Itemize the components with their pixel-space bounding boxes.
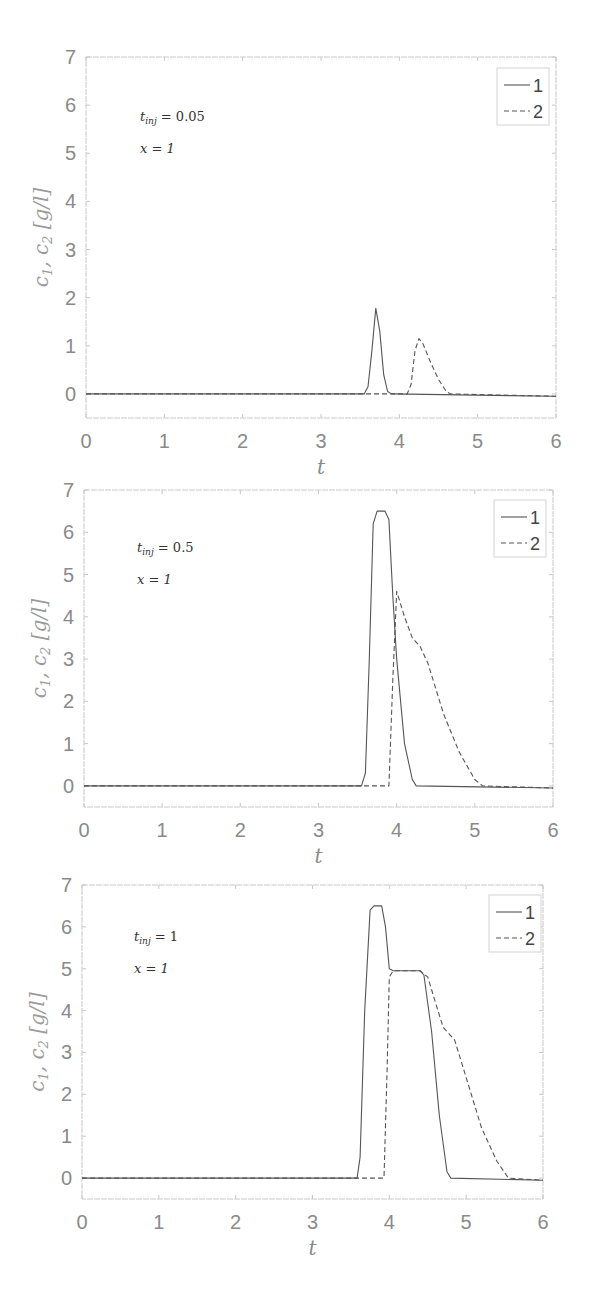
x-tick-label: 6 [537, 1211, 548, 1233]
y-axis-label: c1, c2 [g/l] [29, 188, 55, 288]
annotation-x: x = 1 [134, 961, 169, 976]
series-2-line [86, 339, 556, 397]
legend-label-2: 2 [525, 929, 535, 949]
x-tick-label: 3 [313, 819, 324, 841]
chart-1: 012345601234567tc1, c2 [g/l]tinj = 0.05x… [29, 46, 562, 479]
y-tick-label: 6 [65, 94, 76, 116]
y-tick-label: 6 [63, 521, 74, 543]
x-tick-label: 0 [76, 1211, 87, 1233]
x-tick-label: 4 [394, 430, 405, 452]
x-tick-label: 2 [237, 430, 248, 452]
x-axis-label: t [308, 1236, 317, 1260]
x-tick-label: 3 [307, 1211, 318, 1233]
x-tick-label: 1 [157, 819, 168, 841]
x-tick-label: 2 [230, 1211, 241, 1233]
x-tick-label: 1 [153, 1211, 164, 1233]
legend-label-1: 1 [533, 76, 543, 96]
figure: 012345601234567tc1, c2 [g/l]tinj = 0.05x… [0, 0, 589, 1292]
series-2-line [84, 591, 553, 788]
y-tick-label: 0 [65, 383, 76, 405]
legend-label-1: 1 [525, 903, 535, 923]
y-tick-label: 3 [65, 239, 76, 261]
annotation-x: x = 1 [140, 141, 175, 156]
y-tick-label: 3 [63, 648, 74, 670]
chart-3: 012345601234567tc1, c2 [g/l]tinj = 1x = … [25, 874, 549, 1260]
y-tick-label: 7 [63, 479, 74, 501]
y-tick-label: 5 [61, 958, 72, 980]
x-tick-label: 5 [472, 430, 483, 452]
y-tick-label: 2 [63, 690, 74, 712]
y-tick-label: 5 [63, 564, 74, 586]
x-tick-label: 2 [235, 819, 246, 841]
y-tick-label: 1 [63, 733, 74, 755]
y-tick-label: 0 [61, 1167, 72, 1189]
x-tick-label: 3 [315, 430, 326, 452]
y-tick-label: 5 [65, 142, 76, 164]
y-tick-label: 2 [61, 1083, 72, 1105]
x-tick-label: 1 [159, 430, 170, 452]
y-tick-label: 1 [61, 1125, 72, 1147]
x-tick-label: 4 [391, 819, 402, 841]
y-axis-label: c1, c2 [g/l] [25, 992, 51, 1092]
x-tick-label: 5 [469, 819, 480, 841]
legend-label-2: 2 [533, 102, 543, 122]
annotation-x: x = 1 [137, 572, 172, 587]
x-tick-label: 6 [550, 430, 561, 452]
x-axis-label: t [317, 455, 326, 479]
y-tick-label: 4 [65, 190, 76, 212]
y-tick-label: 7 [65, 46, 76, 68]
x-tick-label: 0 [78, 819, 89, 841]
y-tick-label: 0 [63, 775, 74, 797]
x-tick-label: 0 [80, 430, 91, 452]
legend: 12 [489, 895, 541, 952]
series-1-line [86, 308, 556, 396]
chart-2: 012345601234567tc1, c2 [g/l]tinj = 0.5x … [27, 479, 559, 868]
annotation-tinj: tinj = 0.05 [140, 109, 205, 126]
y-tick-label: 2 [65, 287, 76, 309]
y-tick-label: 6 [61, 916, 72, 938]
y-tick-label: 4 [63, 606, 74, 628]
y-axis-label: c1, c2 [g/l] [27, 599, 53, 699]
series-1-line [82, 906, 543, 1180]
x-tick-label: 6 [547, 819, 558, 841]
y-tick-label: 7 [61, 874, 72, 896]
y-tick-label: 3 [61, 1041, 72, 1063]
legend-label-2: 2 [530, 534, 540, 554]
annotation-tinj: tinj = 0.5 [137, 540, 194, 557]
x-tick-label: 5 [461, 1211, 472, 1233]
y-tick-label: 4 [61, 1000, 72, 1022]
x-tick-label: 4 [384, 1211, 395, 1233]
legend: 12 [497, 68, 549, 125]
x-axis-label: t [314, 844, 323, 868]
legend-label-1: 1 [530, 508, 540, 528]
annotation-tinj: tinj = 1 [134, 929, 178, 946]
y-tick-label: 1 [65, 335, 76, 357]
legend: 12 [494, 500, 546, 557]
plot-area [84, 490, 553, 807]
series-2-line [82, 971, 543, 1180]
